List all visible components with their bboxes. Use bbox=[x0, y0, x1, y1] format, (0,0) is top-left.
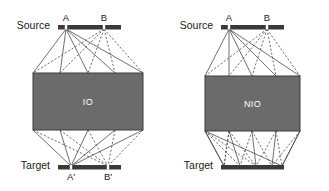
ray-target-parallel bbox=[276, 131, 282, 166]
ray-target-Bp bbox=[60, 130, 108, 166]
target-node-label-Ap: A' bbox=[67, 171, 75, 182]
ray-target-parallel bbox=[229, 131, 256, 166]
node-marker-Ap bbox=[70, 165, 72, 170]
ray-target-Bp bbox=[108, 130, 115, 166]
ray-target-Bp bbox=[88, 130, 108, 166]
left-panel: IOSourceTargetABA'B' bbox=[17, 12, 143, 182]
right-panel: NIOSourceTargetAB bbox=[180, 12, 300, 171]
target-node-label-Bp: B' bbox=[104, 171, 112, 182]
node-marker-B bbox=[103, 25, 105, 30]
right-panel-box-label: NIO bbox=[244, 99, 261, 109]
ray-target-parallel bbox=[272, 131, 300, 166]
right-panel-lower-rays bbox=[205, 131, 300, 166]
io-nio-comparison-diagram: IOSourceTargetABA'B'NIOSourceTargetAB bbox=[0, 0, 329, 191]
ray-target-parallel bbox=[240, 131, 252, 166]
ray-target-Ap bbox=[71, 130, 115, 166]
ray-target-parallel bbox=[205, 131, 282, 166]
ray-source-B bbox=[104, 29, 143, 73]
right-panel-source-bar bbox=[221, 25, 284, 30]
source-node-label-B: B bbox=[101, 12, 107, 23]
ray-target-Bp bbox=[108, 130, 143, 166]
ray-source-B bbox=[33, 29, 104, 73]
left-panel-box-label: IO bbox=[83, 97, 93, 107]
right-panel-upper-rays bbox=[205, 29, 300, 76]
ray-source-A bbox=[205, 29, 229, 76]
source-node-label-A: A bbox=[63, 12, 70, 23]
left-panel-source-bar bbox=[58, 25, 121, 30]
ray-source-B bbox=[229, 29, 267, 76]
source-node-label-B: B bbox=[264, 12, 270, 23]
source-node-label-A: A bbox=[226, 12, 233, 23]
ray-target-Ap bbox=[71, 130, 88, 166]
node-marker-Bp bbox=[107, 165, 109, 170]
left-panel-target-label: Target bbox=[21, 159, 50, 171]
left-panel-target-bar bbox=[58, 165, 121, 170]
right-panel-target-bar bbox=[221, 165, 284, 170]
node-marker-B bbox=[266, 25, 268, 30]
ray-source-A bbox=[229, 29, 252, 76]
left-panel-source-label: Source bbox=[17, 19, 50, 31]
diagram-canvas: IOSourceTargetABA'B'NIOSourceTargetAB bbox=[0, 0, 329, 191]
ray-source-A bbox=[229, 29, 300, 76]
node-marker-A bbox=[65, 25, 67, 30]
ray-target-cross bbox=[224, 131, 229, 166]
ray-source-B bbox=[267, 29, 300, 76]
ray-target-parallel bbox=[272, 131, 276, 166]
left-panel-upper-rays bbox=[33, 29, 143, 73]
right-panel-source-label: Source bbox=[180, 19, 213, 31]
right-panel-target-label: Target bbox=[184, 159, 213, 171]
ray-source-B bbox=[60, 29, 104, 73]
ray-source-A bbox=[66, 29, 115, 73]
ray-target-edge bbox=[282, 131, 300, 166]
ray-source-A bbox=[66, 29, 143, 73]
ray-source-A bbox=[229, 29, 276, 76]
ray-target-Ap bbox=[71, 130, 143, 166]
ray-target-parallel bbox=[252, 131, 256, 166]
node-marker-A bbox=[228, 25, 230, 30]
